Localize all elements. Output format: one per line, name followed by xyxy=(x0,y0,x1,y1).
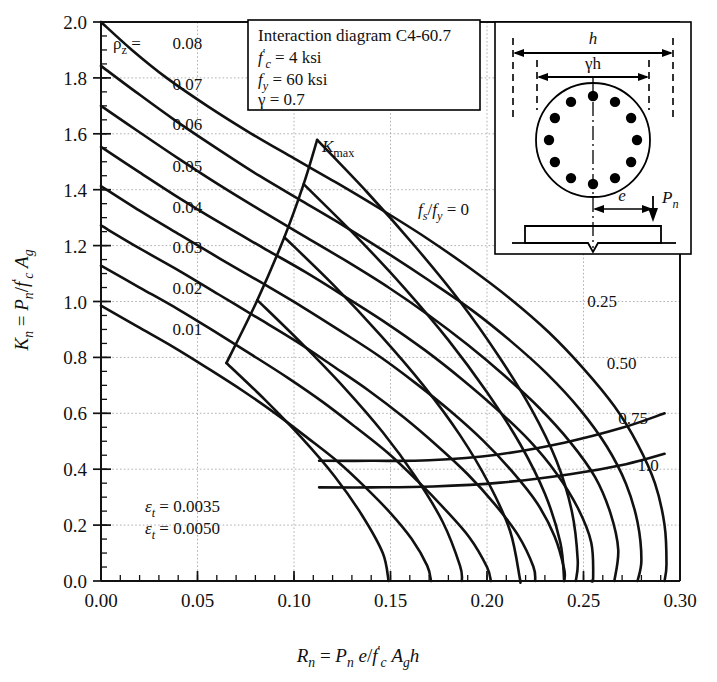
title-box: Interaction diagram C4-60.7 f′c = 4 ksi … xyxy=(248,20,480,110)
epsilon-t-labels: εt = 0.0035 εt = 0.0050 xyxy=(145,497,220,542)
y-tick-label: 1.2 xyxy=(63,236,87,257)
chart-svg: 0.000.050.100.150.200.250.30 0.00.20.40.… xyxy=(0,0,717,682)
y-tick-label: 1.4 xyxy=(63,180,87,201)
x-tick-label: 0.20 xyxy=(470,590,503,611)
y-tick-label: 1.0 xyxy=(63,292,87,313)
fs-fy-curve-label: 0.50 xyxy=(607,354,637,373)
y-tick-label: 0.6 xyxy=(63,403,87,424)
x-tick-label: 0.25 xyxy=(567,590,600,611)
svg-text:γh: γh xyxy=(584,54,602,73)
x-tick-label: 0.10 xyxy=(277,590,310,611)
title-box-line-1: Interaction diagram C4-60.7 xyxy=(258,26,452,45)
x-tick-label: 0.15 xyxy=(374,590,407,611)
rho-z-curve-label: 0.03 xyxy=(172,238,202,257)
y-tick-label: 1.6 xyxy=(63,124,87,145)
rho-z-curve-label: 0.01 xyxy=(172,320,202,339)
y-tick-label: 2.0 xyxy=(63,12,87,33)
y-tick-label: 1.8 xyxy=(63,68,87,89)
y-tick-label: 0.8 xyxy=(63,347,87,368)
rho-z-curve-label: 0.02 xyxy=(172,279,202,298)
svg-text:h: h xyxy=(589,29,598,48)
y-tick-label: 0.2 xyxy=(63,515,87,536)
x-tick-label: 0.05 xyxy=(181,590,214,611)
rho-z-curve-label: 0.04 xyxy=(172,198,202,217)
y-tick-label: 0.4 xyxy=(63,459,87,480)
interaction-diagram-figure: 0.000.050.100.150.200.250.30 0.00.20.40.… xyxy=(0,0,717,682)
x-tick-label: 0.00 xyxy=(84,590,117,611)
svg-text:e: e xyxy=(618,186,626,205)
x-tick-label: 0.30 xyxy=(663,590,696,611)
y-tick-label: 0.0 xyxy=(63,571,87,592)
rho-z-curve-label: 0.07 xyxy=(172,75,202,94)
fs-fy-curve-label: 0.25 xyxy=(587,292,617,311)
fs-fy-curve-label: 0.75 xyxy=(618,409,648,428)
title-box-line-4: γ = 0.7 xyxy=(257,90,305,109)
cross-section-inset: h γh e xyxy=(495,22,691,254)
rho-z-curve-label: 0.06 xyxy=(172,115,202,134)
rho-z-curve-label: 0.08 xyxy=(172,34,202,53)
fs-fy-curve-label: 1.0 xyxy=(638,456,659,475)
rho-z-curve-label: 0.05 xyxy=(172,157,202,176)
